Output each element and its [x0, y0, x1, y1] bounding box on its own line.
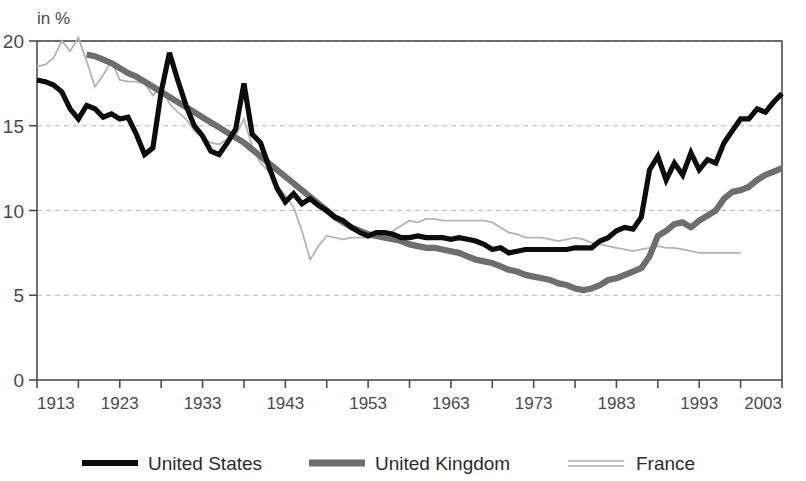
y-tick-label-15: 15 — [3, 116, 24, 137]
y-axis-unit-label: in % — [37, 9, 70, 28]
legend-label-united-kingdom: United Kingdom — [375, 453, 510, 474]
y-tick-label-5: 5 — [13, 285, 24, 306]
y-axis: 05101520 — [3, 31, 37, 391]
x-tick-label-1993: 1993 — [680, 394, 718, 413]
line-chart: in % 05101520 19131923193319431953196319… — [0, 0, 806, 481]
x-tick-label-2003: 2003 — [744, 394, 782, 413]
legend-label-united-states: United States — [148, 453, 262, 474]
x-tick-label-1933: 1933 — [184, 394, 222, 413]
series-layer — [37, 38, 782, 291]
y-tick-label-10: 10 — [3, 201, 24, 222]
chart-container: in % 05101520 19131923193319431953196319… — [0, 0, 806, 481]
x-axis: 1913192319331943195319631973198319932003 — [37, 380, 782, 413]
y-tick-label-0: 0 — [13, 370, 24, 391]
chart-legend: United States United Kingdom France — [82, 453, 695, 474]
x-tick-label-1913: 1913 — [37, 394, 75, 413]
legend-item-united-states[interactable]: United States — [82, 453, 262, 474]
x-tick-label-1943: 1943 — [266, 394, 304, 413]
legend-item-united-kingdom[interactable]: United Kingdom — [309, 453, 510, 474]
series-line-united-kingdom — [87, 55, 782, 291]
x-tick-label-1923: 1923 — [101, 394, 139, 413]
x-tick-label-1963: 1963 — [432, 394, 470, 413]
x-tick-label-1983: 1983 — [598, 394, 636, 413]
x-tick-label-1973: 1973 — [515, 394, 553, 413]
legend-item-france[interactable]: France — [568, 453, 695, 474]
x-tick-label-1953: 1953 — [349, 394, 387, 413]
legend-label-france: France — [636, 453, 695, 474]
y-tick-label-20: 20 — [3, 31, 24, 52]
